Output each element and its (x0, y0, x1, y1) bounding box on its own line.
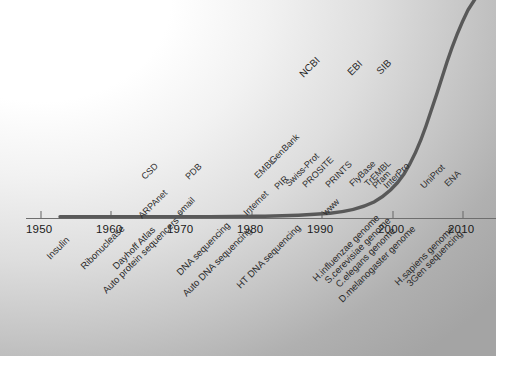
timeline-chart: 1950 1960 1970 1980 1990 2000 2010 NCBI … (0, 0, 512, 372)
chart-canvas (0, 0, 512, 372)
growth-curve (60, 0, 477, 217)
x-tick-1990: 1990 (307, 223, 333, 235)
x-tick-1950: 1950 (26, 223, 52, 235)
